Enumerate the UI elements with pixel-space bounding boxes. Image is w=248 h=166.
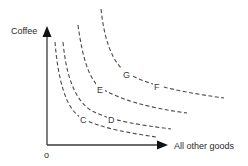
point-label-d: D bbox=[108, 115, 115, 125]
y-axis-label: Coffee bbox=[11, 26, 37, 36]
point-label-g: G bbox=[123, 70, 130, 80]
origin-label: o bbox=[44, 150, 49, 160]
indifference-curve-3 bbox=[78, 25, 187, 113]
indifference-curve-4 bbox=[101, 9, 224, 98]
x-axis-arrow-icon bbox=[157, 141, 168, 150]
point-label-c: C bbox=[80, 115, 87, 125]
indifference-curve-diagram: Coffee All other goods o C D E G F bbox=[0, 0, 248, 166]
y-axis-arrow-icon bbox=[43, 26, 52, 37]
x-axis-label: All other goods bbox=[174, 141, 235, 151]
point-label-f: F bbox=[154, 82, 160, 92]
indifference-curve-1 bbox=[55, 42, 156, 137]
point-label-e: E bbox=[97, 85, 103, 95]
